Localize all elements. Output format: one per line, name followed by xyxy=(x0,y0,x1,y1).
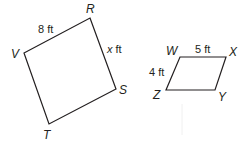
vertex-label-x: X xyxy=(228,45,238,59)
figure-wxyz: W X Y Z 5 ft 4 ft xyxy=(149,43,238,104)
side-variable-x: x xyxy=(106,43,113,55)
side-unit-ft: ft xyxy=(116,43,122,55)
vertex-label-v: V xyxy=(11,47,20,61)
side-label-vr: 8 ft xyxy=(38,23,53,35)
geometry-diagram: R S T V 8 ft xft W X Y Z 5 ft 4 ft xyxy=(0,0,247,145)
vertex-label-z: Z xyxy=(152,88,161,102)
side-label-wz: 4 ft xyxy=(149,66,164,78)
side-label-wx: 5 ft xyxy=(195,43,210,55)
vertex-label-s: S xyxy=(119,83,127,97)
vertex-label-r: R xyxy=(86,2,95,16)
side-label-rs: xft xyxy=(106,43,122,55)
vertex-label-y: Y xyxy=(218,90,227,104)
vertex-label-w: W xyxy=(166,44,179,58)
parallelogram-wxyz xyxy=(166,57,226,90)
vertex-label-t: T xyxy=(43,128,52,142)
figure-rstv: R S T V 8 ft xft xyxy=(11,2,127,142)
